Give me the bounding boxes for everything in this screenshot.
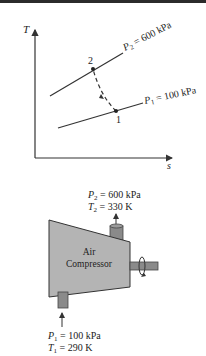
compressor-diagram: P2 = 600 kPa T2 = 330 K Air Compressor P… [47, 189, 158, 355]
p1-line-label: P1 = 100 kPa [142, 84, 198, 108]
compressor-name-line1: Air [83, 247, 97, 257]
state-point-2 [91, 67, 95, 71]
diagram-canvas: T s 2 1 P2 = 600 kPa P1 = 100 kPa P2 = 6… [0, 0, 206, 356]
point-1-label: 1 [116, 114, 121, 125]
p2-line-label: P2 = 600 kPa [120, 19, 174, 55]
svg-text:P1 = 100 kPa: P1 = 100 kPa [142, 84, 198, 108]
isobar-p2 [50, 53, 123, 96]
inlet-temperature-label: T1 = 290 K [48, 342, 93, 355]
path-arrow-icon [99, 94, 104, 99]
t-axis-label: T [23, 23, 30, 35]
isobar-p1 [58, 103, 143, 128]
compressor-name-line2: Compressor [66, 259, 113, 269]
compression-path [93, 69, 116, 111]
ts-diagram: T s 2 1 P2 = 600 kPa P1 = 100 kPa [23, 19, 198, 171]
outlet-temperature-label: T2 = 330 K [88, 201, 133, 214]
inlet-pipe [58, 292, 68, 308]
state-point-1 [114, 109, 118, 113]
point-2-label: 2 [88, 55, 93, 66]
svg-text:P2 = 600 kPa: P2 = 600 kPa [120, 19, 174, 55]
drive-shaft [130, 262, 158, 270]
s-axis-label: s [167, 160, 171, 171]
